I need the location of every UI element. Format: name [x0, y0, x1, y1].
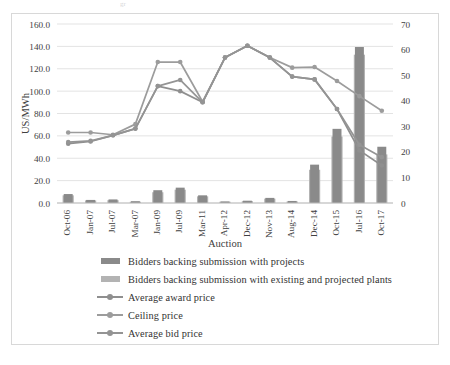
x-axis-category-label: Jan-09: [152, 210, 162, 235]
bar-with-projects: [109, 199, 118, 203]
bar-series-group: [63, 47, 388, 203]
line-data-point: [357, 143, 362, 148]
x-axis-category-label: Jan-07: [85, 210, 95, 235]
x-axis-category-label: Jul-07: [107, 210, 117, 233]
x-axis-category-label: Mar-07: [130, 210, 140, 238]
line-data-point: [380, 155, 385, 160]
line-data-point: [380, 108, 385, 113]
line-data-point: [178, 60, 183, 65]
bar-with-projects: [198, 195, 207, 203]
legend-item-label: Ceiling price: [124, 310, 183, 321]
line-data-point: [312, 65, 317, 70]
legend-item-label: Bidders backing submission with existing…: [124, 274, 392, 285]
line-data-point: [268, 55, 273, 60]
line-data-point: [290, 74, 295, 79]
legend-bidders-projects: Bidders backing submission with projects: [96, 252, 426, 270]
legend-average-award-price: Average award price: [96, 288, 426, 306]
x-axis-category-label: Dec-14: [309, 210, 319, 237]
right-axis-tick: 40: [401, 96, 411, 106]
line-data-point: [335, 107, 340, 112]
right-axis-tick: 70: [401, 20, 411, 30]
left-axis-tick: 140.0: [29, 42, 50, 52]
line-data-point: [111, 133, 116, 138]
line-swatch-marker-icon: [107, 330, 113, 336]
left-axis-tick: 60.0: [34, 131, 50, 141]
right-axis-tick: 10: [401, 173, 411, 183]
line-data-point: [223, 55, 228, 60]
line-data-point: [357, 148, 362, 153]
line-swatch-icon: [97, 310, 123, 320]
x-axis-title: Auction: [208, 238, 243, 249]
line-data-point: [156, 60, 161, 65]
right-axis-tick: 0: [401, 199, 406, 209]
left-axis-tick: 160.0: [29, 20, 50, 30]
legend-item-label: Bidders backing submission with projects: [124, 256, 304, 267]
line-data-point: [335, 79, 340, 84]
legend-item-label: Average award price: [124, 292, 215, 303]
line-swatch-marker-icon: [107, 312, 113, 318]
line-swatch-marker-icon: [107, 294, 113, 300]
x-axis-category-label: Nov-13: [264, 210, 274, 238]
line-swatch-icon: [97, 328, 123, 338]
left-axis-tick: 80.0: [34, 109, 50, 119]
legend-line-swatch-icon: [96, 327, 124, 339]
bar-with-projects: [265, 198, 274, 203]
bar-with-projects: [355, 47, 364, 203]
right-axis-tick: 50: [401, 71, 411, 81]
legend-line-swatch-icon: [96, 291, 124, 303]
line-data-point: [245, 44, 250, 49]
x-axis-category-label: Jul-16: [354, 210, 364, 233]
x-axis-category-label: Mar-11: [197, 210, 207, 237]
right-axis-tick: 20: [401, 147, 411, 157]
left-axis-tick: 20.0: [34, 176, 50, 186]
bar-with-projects: [176, 188, 185, 203]
left-axis-tick: 100.0: [29, 87, 50, 97]
y-axis-title: US/MWh: [20, 92, 31, 134]
line-data-point: [156, 84, 161, 89]
legend-average-bid-price: Average bid price: [96, 324, 426, 342]
line-data-point: [66, 140, 71, 145]
chart-figure: gr 0.020.040.060.080.0100.0120.0140.0160…: [0, 0, 450, 365]
legend-item-label: Average bid price: [124, 328, 203, 339]
line-data-point: [88, 130, 93, 135]
line-data-point: [312, 77, 317, 82]
left-axis-tick: 120.0: [29, 64, 50, 74]
bar-with-projects: [310, 165, 319, 203]
line-data-point: [88, 139, 93, 144]
line-data-point: [133, 126, 138, 131]
x-axis-category-label: Dec-12: [242, 210, 252, 237]
x-axis-category-label: Oct-17: [376, 210, 386, 236]
legend-ceiling-price: Ceiling price: [96, 306, 426, 324]
chart-legend: Bidders backing submission with projects…: [96, 252, 426, 342]
bar-with-projects: [333, 129, 342, 203]
line-data-point: [178, 78, 183, 83]
x-axis-category-label: Jul-09: [174, 210, 184, 233]
line-data-point: [200, 100, 205, 105]
bar-swatch-icon: [101, 276, 120, 282]
line-data-point: [66, 130, 71, 135]
x-axis-category-label: Apr-12: [219, 210, 229, 237]
right-axis-tick: 30: [401, 122, 411, 132]
line-data-point: [178, 89, 183, 94]
left-axis-tick: 0.0: [39, 199, 51, 209]
x-axis-category-label: Oct-06: [62, 210, 72, 236]
bar-swatch-icon: [101, 258, 120, 264]
x-axis-category-label: Oct-15: [331, 210, 341, 236]
line-data-point: [380, 163, 385, 168]
bar-with-projects: [153, 190, 162, 203]
line-data-point: [290, 65, 295, 70]
line-swatch-icon: [97, 292, 123, 302]
legend-bar-swatch-icon: [96, 273, 124, 285]
line-data-point: [357, 94, 362, 99]
legend-line-swatch-icon: [96, 309, 124, 321]
bar-with-projects: [64, 194, 73, 203]
x-axis-category-label: Aug-14: [286, 210, 296, 238]
left-axis-tick: 40.0: [34, 154, 50, 164]
legend-bidders-existing: Bidders backing submission with existing…: [96, 270, 426, 288]
right-axis-tick: 60: [401, 45, 411, 55]
legend-bar-swatch-icon: [96, 255, 124, 267]
